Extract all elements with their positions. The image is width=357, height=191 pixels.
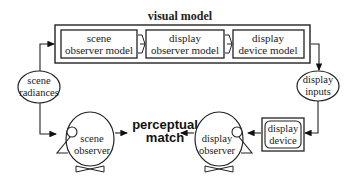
visual-model-title: visual model bbox=[148, 9, 213, 23]
svg-text:scene: scene bbox=[87, 32, 112, 44]
display-inputs-node: display inputs bbox=[297, 71, 339, 101]
display-device-model-box: display device model bbox=[233, 30, 304, 58]
svg-text:match: match bbox=[146, 130, 184, 145]
svg-text:observer model: observer model bbox=[65, 44, 133, 56]
svg-text:display: display bbox=[202, 133, 233, 144]
scene-radiances-node: scene radiances bbox=[18, 71, 60, 103]
bowtie-icon bbox=[205, 166, 233, 172]
display-observer-node: display observer bbox=[195, 112, 252, 172]
connector-arrow bbox=[311, 44, 319, 70]
scene-observer-node: scene observer bbox=[57, 112, 114, 172]
svg-text:scene: scene bbox=[80, 133, 104, 144]
bowtie-icon bbox=[76, 166, 104, 172]
svg-text:inputs: inputs bbox=[305, 86, 331, 97]
svg-text:display: display bbox=[252, 32, 284, 44]
eye-icon bbox=[232, 127, 242, 137]
chevron-arrow-icon bbox=[225, 35, 232, 53]
display-device-node: display device bbox=[262, 118, 304, 151]
scene-observer-model-box: scene observer model bbox=[61, 30, 137, 58]
svg-text:device model: device model bbox=[239, 44, 298, 56]
svg-text:display: display bbox=[169, 32, 201, 44]
svg-text:observer: observer bbox=[74, 145, 111, 156]
svg-text:observer model: observer model bbox=[151, 44, 219, 56]
svg-text:observer: observer bbox=[199, 145, 236, 156]
eye-icon bbox=[67, 127, 77, 137]
diagram-canvas: visual model scene observer model displa… bbox=[0, 0, 357, 191]
svg-text:device: device bbox=[269, 135, 297, 146]
chevron-arrow-icon bbox=[138, 35, 145, 53]
display-observer-model-box: display observer model bbox=[146, 30, 224, 58]
connector-arrow bbox=[40, 44, 54, 71]
connector-arrow bbox=[40, 103, 56, 134]
svg-text:display: display bbox=[268, 123, 299, 134]
svg-text:radiances: radiances bbox=[19, 87, 59, 98]
svg-text:display: display bbox=[303, 74, 334, 85]
perceptual-match-label: perceptual match bbox=[132, 117, 198, 145]
svg-text:scene: scene bbox=[27, 75, 51, 86]
connector-arrow bbox=[305, 101, 318, 133]
